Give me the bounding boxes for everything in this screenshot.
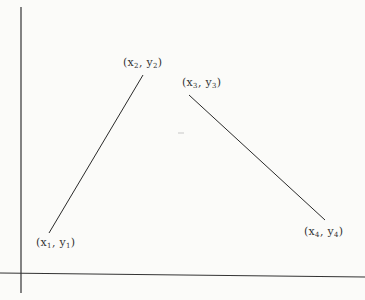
point-label-p3: (x3, y3) (182, 76, 221, 90)
point-label-p1: (x1, y1) (36, 236, 75, 250)
x-axis (0, 273, 365, 277)
segment-p3-p4 (189, 95, 325, 220)
diagram-canvas (0, 0, 365, 300)
point-label-p2: (x2, y2) (123, 56, 162, 70)
segment-p1-p2 (49, 75, 143, 233)
point-label-p4: (x4, y4) (304, 225, 343, 239)
